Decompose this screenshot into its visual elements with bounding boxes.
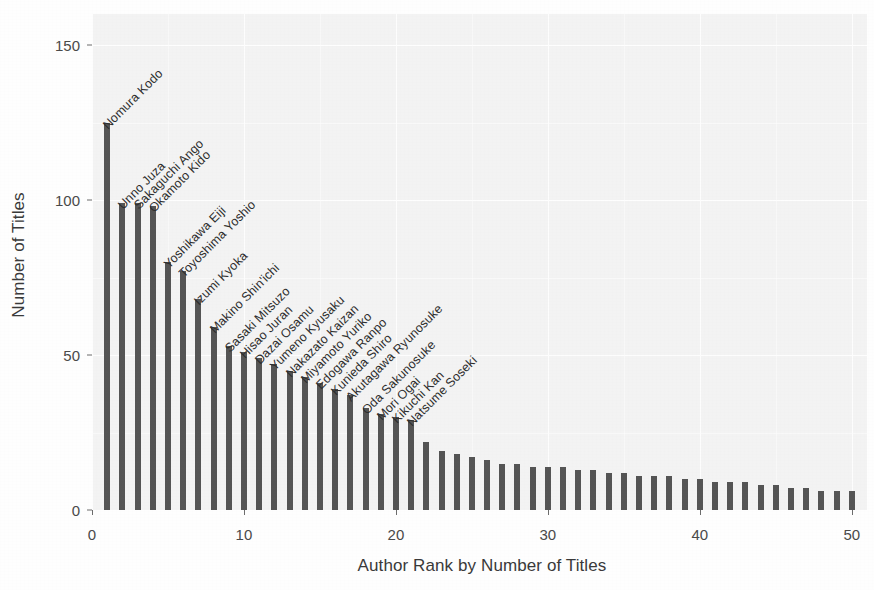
gridline-major-vertical: [92, 14, 93, 510]
bar: [742, 482, 748, 510]
bar: [484, 460, 490, 510]
gridline-minor-horizontal: [92, 123, 867, 124]
bar: [697, 479, 703, 510]
x-tick-label: 50: [827, 526, 874, 543]
bar: [378, 414, 384, 510]
gridline-major-vertical: [548, 14, 549, 510]
bar: [621, 473, 627, 510]
y-axis-title-text: Number of Titles: [9, 192, 29, 317]
x-axis-ticks: 01020304050: [0, 510, 874, 560]
bar: [302, 377, 308, 510]
plot-panel: Nomura KodoUnno JuzaSakaguchi AngoOkamot…: [92, 14, 867, 510]
x-tick-label: 20: [371, 526, 421, 543]
bar: [347, 395, 353, 510]
gridline-major-horizontal: [92, 45, 867, 46]
x-tick-mark: [92, 510, 93, 515]
x-tick-mark: [548, 510, 549, 515]
bar: [180, 271, 186, 510]
bar: [803, 488, 809, 510]
x-tick-label: 0: [67, 526, 117, 543]
bar: [834, 491, 840, 510]
bar: [393, 417, 399, 510]
bar: [211, 327, 217, 510]
x-tick-label: 10: [219, 526, 269, 543]
bar: [287, 371, 293, 511]
bar: [119, 203, 125, 510]
bar: [560, 467, 566, 510]
x-tick-mark: [700, 510, 701, 515]
bar: [195, 299, 201, 510]
gridline-major-vertical: [852, 14, 853, 510]
bar: [104, 123, 110, 511]
x-axis-title: Author Rank by Number of Titles: [97, 556, 867, 576]
bar: [454, 454, 460, 510]
gridline-minor-vertical: [776, 14, 777, 510]
bar: [682, 479, 688, 510]
bar: [590, 470, 596, 510]
bar: [271, 364, 277, 510]
gridline-minor-horizontal: [92, 433, 867, 434]
x-tick-label: 30: [523, 526, 573, 543]
bar: [514, 464, 520, 511]
bar: [666, 476, 672, 510]
bar: [332, 389, 338, 510]
bar: [773, 485, 779, 510]
bar: [545, 467, 551, 510]
bar: [788, 488, 794, 510]
bar: [758, 485, 764, 510]
bar: [849, 491, 855, 510]
gridline-major-vertical: [700, 14, 701, 510]
bar: [606, 473, 612, 510]
bar: [135, 203, 141, 510]
bar: [712, 482, 718, 510]
bar: [651, 476, 657, 510]
y-axis-ticks: 050100150: [30, 0, 92, 590]
gridline-major-horizontal: [92, 200, 867, 201]
bar: [499, 464, 505, 511]
bar: [423, 442, 429, 510]
bar: [818, 491, 824, 510]
bar: [226, 346, 232, 510]
gridline-minor-vertical: [624, 14, 625, 510]
bar: [241, 352, 247, 510]
chart-figure: Number of Titles 050100150 Nomura KodoUn…: [0, 0, 874, 590]
bar: [150, 206, 156, 510]
bar: [256, 358, 262, 510]
x-tick-mark: [852, 510, 853, 515]
bar: [575, 470, 581, 510]
x-tick-label: 40: [675, 526, 725, 543]
y-tick-label: 150: [34, 37, 80, 54]
x-tick-mark: [396, 510, 397, 515]
bar: [636, 476, 642, 510]
bar: [530, 467, 536, 510]
bar: [439, 451, 445, 510]
y-tick-label: 100: [34, 192, 80, 209]
bar: [469, 457, 475, 510]
bar: [317, 383, 323, 510]
bar: [165, 262, 171, 510]
gridline-minor-horizontal: [92, 278, 867, 279]
bar: [363, 408, 369, 510]
y-tick-label: 50: [34, 347, 80, 364]
x-tick-mark: [244, 510, 245, 515]
bar: [408, 420, 414, 510]
gridline-minor-vertical: [472, 14, 473, 510]
bar: [727, 482, 733, 510]
gridline-major-horizontal: [92, 355, 867, 356]
